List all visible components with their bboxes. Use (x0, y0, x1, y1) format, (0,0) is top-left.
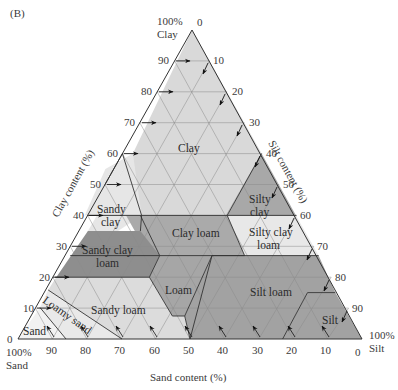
label-sandy-clay-loam-2: loam (96, 257, 119, 269)
svg-text:60: 60 (149, 344, 161, 356)
label-silty-clay-1: Silty (249, 193, 271, 206)
corner-silt-name: Silt (369, 342, 384, 354)
soil-texture-triangle: (B) 100% Clay 0 100% Sand 0 100% Silt 10… (0, 0, 398, 390)
label-clay: Clay (178, 142, 200, 155)
svg-text:40: 40 (217, 344, 229, 356)
corner-sand-name: Sand (6, 359, 29, 371)
svg-text:80: 80 (80, 344, 92, 356)
svg-text:70: 70 (317, 240, 329, 252)
svg-text:10: 10 (213, 54, 225, 66)
label-loam: Loam (165, 284, 192, 296)
svg-text:30: 30 (252, 344, 264, 356)
panel-label: (B) (10, 7, 25, 20)
svg-text:80: 80 (335, 271, 347, 283)
svg-text:80: 80 (141, 85, 153, 97)
corner-sand-pct: 100% (6, 346, 32, 358)
svg-text:0: 0 (355, 346, 361, 358)
label-sandy-clay-loam-1: Sandy clay (82, 244, 133, 257)
svg-text:30: 30 (249, 116, 261, 128)
silt-tick-top: 0 (197, 16, 203, 28)
label-silty-clay-loam-1: Silty clay (249, 226, 293, 239)
svg-text:20: 20 (39, 271, 51, 283)
svg-text:10: 10 (23, 302, 35, 314)
svg-text:20: 20 (286, 344, 298, 356)
svg-text:60: 60 (300, 209, 312, 221)
label-silt: Silt (322, 314, 339, 326)
sand-axis-title: Sand content (%) (150, 371, 227, 384)
label-sand: Sand (23, 325, 46, 337)
svg-text:50: 50 (90, 178, 102, 190)
label-silty-clay-loam-2: loam (257, 239, 280, 251)
corner-silt-pct: 100% (369, 329, 395, 341)
svg-text:90: 90 (352, 302, 364, 314)
svg-text:70: 70 (114, 344, 126, 356)
svg-text:20: 20 (232, 85, 244, 97)
label-sandy-clay-1: Sandy (97, 203, 126, 216)
svg-text:40: 40 (73, 209, 85, 221)
corner-clay-name: Clay (157, 28, 178, 40)
corner-clay-pct: 100% (157, 15, 183, 27)
clay-tick-0: 0 (7, 333, 13, 345)
label-sandy-loam: Sandy loam (91, 304, 146, 317)
sand-ticks: 90 80 70 60 50 40 30 20 10 0 (46, 344, 361, 358)
svg-text:50: 50 (183, 344, 195, 356)
svg-text:30: 30 (56, 240, 68, 252)
label-sandy-clay-2: clay (101, 216, 120, 229)
label-silty-clay-2: clay (250, 206, 269, 219)
svg-text:10: 10 (320, 344, 332, 356)
svg-text:70: 70 (124, 116, 136, 128)
svg-text:90: 90 (46, 344, 58, 356)
label-clay-loam: Clay loam (172, 227, 220, 240)
svg-text:60: 60 (107, 147, 119, 159)
svg-text:90: 90 (158, 54, 170, 66)
label-silt-loam: Silt loam (250, 286, 292, 298)
